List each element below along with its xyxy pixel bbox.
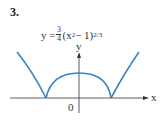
plot-area: [0, 0, 166, 131]
curve-middle-arch: [46, 73, 111, 98]
y-axis-arrow-icon: [77, 52, 81, 58]
curve-right-branch: [111, 52, 139, 98]
y-axis-label: y: [76, 40, 82, 52]
x-axis-arrow-icon: [143, 96, 149, 100]
origin-label: 0: [68, 101, 74, 113]
x-axis-label: x: [151, 91, 157, 103]
curve-left-branch: [17, 52, 46, 98]
